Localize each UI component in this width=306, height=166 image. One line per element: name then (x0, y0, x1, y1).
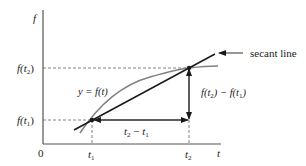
y-axis-label: f (33, 12, 38, 24)
t2-label: t2 (185, 148, 192, 162)
f-t2-label: f(t2) (17, 62, 34, 76)
vertical-difference-label: f(t2) − f(t1) (201, 87, 247, 100)
function-curve (80, 66, 218, 133)
origin-label: 0 (38, 147, 44, 159)
x-axis-label: t (217, 147, 221, 159)
t1-label: t1 (88, 148, 95, 162)
curve-label: y = f(t) (77, 86, 108, 98)
axes (43, 10, 221, 144)
horizontal-difference-label: t2 − t1 (124, 125, 149, 139)
f-t1-label: f(t1) (17, 114, 34, 128)
secant-line-diagram: f t 0 t1 t2 f(t1) f(t2) y = f(t) secant … (0, 0, 306, 166)
secant-label: secant line (250, 47, 297, 59)
point-t1 (90, 118, 94, 122)
